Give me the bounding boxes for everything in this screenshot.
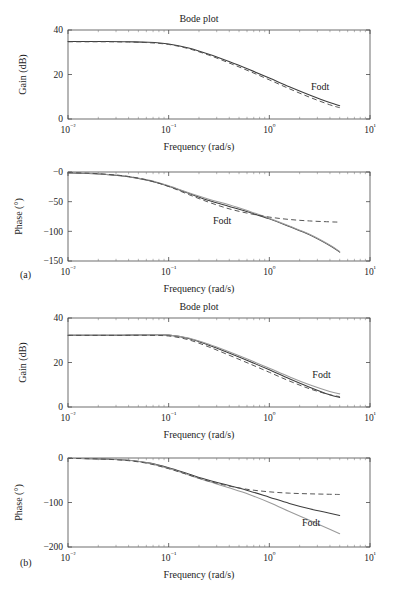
y-axis-title-a-phase: Phase (°) — [13, 198, 25, 235]
x-tick-label: 10⁻¹ — [161, 551, 176, 563]
panel-a-phase: 10⁻²10⁻¹10⁰10¹−0−50−100−150Phase (°)Freq… — [13, 167, 376, 295]
x-tick-label: 10⁻² — [60, 123, 75, 135]
y-tick-label: −100 — [43, 498, 63, 508]
axes-frame-b-phase — [68, 458, 370, 547]
curve-process-a-gain — [68, 42, 340, 106]
curve-annotation-fodt: Fodt — [302, 517, 321, 528]
y-axis-title-a-gain: Gain (dB) — [17, 54, 29, 94]
x-tick-label: 10⁰ — [263, 411, 276, 423]
curve-fodt-approximation-b-gain — [68, 335, 340, 396]
panel-b-phase: 10⁻²10⁻¹10⁰10¹0−100−200Phase (°)Frequenc… — [13, 453, 376, 581]
x-tick-label: 10⁻² — [60, 265, 75, 277]
curve-fodt-approximation-b-phase — [68, 458, 340, 494]
curve-annotation-fodt: Fodt — [213, 215, 232, 226]
x-tick-label: 10⁻¹ — [161, 123, 176, 135]
x-tick-label: 10¹ — [364, 411, 376, 423]
curve-annotation-fodt: Fodt — [312, 369, 331, 380]
x-axis-title-a-phase: Frequency (rad/s) — [164, 283, 235, 295]
y-tick-label: 20 — [54, 358, 64, 368]
x-axis-title-a-gain: Frequency (rad/s) — [164, 141, 235, 153]
x-tick-label: 10⁻² — [60, 551, 75, 563]
x-axis-title-b-gain: Frequency (rad/s) — [164, 429, 235, 441]
y-tick-label: −150 — [43, 256, 63, 266]
curve-process-b-gain — [68, 335, 340, 398]
curve-process-a-phase — [68, 173, 340, 252]
x-tick-label: 10¹ — [364, 265, 376, 277]
x-tick-label: 10⁰ — [263, 123, 276, 135]
curve-process-b-phase — [68, 458, 340, 515]
x-tick-label: 10⁰ — [263, 265, 276, 277]
y-tick-label: 0 — [58, 114, 63, 124]
x-tick-label: 10⁻² — [60, 411, 75, 423]
y-tick-label: −0 — [53, 167, 63, 177]
plot-title-b-gain: Bode plot — [179, 301, 218, 312]
x-axis-title-b-phase: Frequency (rad/s) — [164, 569, 235, 581]
y-tick-label: −50 — [48, 197, 63, 207]
panel-a-gain: 10⁻²10⁻¹10⁰10¹02040Gain (dB)Frequency (r… — [17, 13, 376, 153]
bode-plot-figure: 10⁻²10⁻¹10⁰10¹02040Gain (dB)Frequency (r… — [0, 0, 399, 591]
figure-canvas: 10⁻²10⁻¹10⁰10¹02040Gain (dB)Frequency (r… — [0, 0, 399, 591]
y-tick-label: 0 — [58, 402, 63, 412]
axes-frame-a-gain — [68, 30, 370, 119]
y-tick-label: 0 — [58, 453, 63, 463]
curve-fodt-approximation-a-gain — [68, 42, 340, 108]
y-tick-label: 40 — [54, 25, 64, 35]
x-tick-label: 10⁻¹ — [161, 411, 176, 423]
y-axis-title-b-phase: Phase (°) — [13, 484, 25, 521]
y-tick-label: 40 — [54, 313, 64, 323]
panel-label-b: (b) — [20, 557, 32, 569]
curve-process-alt-a-phase — [68, 173, 340, 252]
curve-process-alt-b-phase — [68, 458, 340, 533]
x-tick-label: 10¹ — [364, 123, 376, 135]
y-tick-label: 20 — [54, 70, 64, 80]
x-tick-label: 10¹ — [364, 551, 376, 563]
y-axis-title-b-gain: Gain (dB) — [17, 342, 29, 382]
panel-label-a: (a) — [20, 269, 31, 281]
plot-title-a-gain: Bode plot — [179, 13, 218, 24]
y-tick-label: −100 — [43, 227, 63, 237]
panel-b-gain: 10⁻²10⁻¹10⁰10¹02040Gain (dB)Frequency (r… — [17, 301, 376, 441]
curve-annotation-fodt: Fodt — [311, 81, 330, 92]
x-tick-label: 10⁻¹ — [161, 265, 176, 277]
y-tick-label: −200 — [43, 542, 63, 552]
x-tick-label: 10⁰ — [263, 551, 276, 563]
